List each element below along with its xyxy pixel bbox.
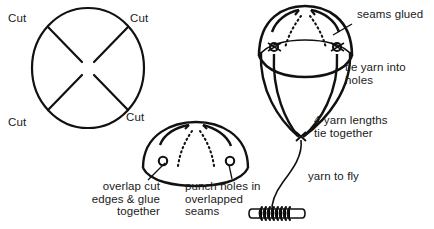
glued-dome bbox=[143, 122, 248, 186]
cut-line-top-left bbox=[48, 27, 82, 62]
dome-dotted-fold-left bbox=[178, 131, 192, 166]
label-yarn-to-fly: yarn to fly bbox=[308, 170, 359, 183]
balloon-dotted-fold-right bbox=[310, 16, 326, 48]
cut-line-bottom-right bbox=[94, 75, 128, 110]
cut-line-bottom-left bbox=[48, 75, 82, 110]
balloon-seam-right bbox=[311, 10, 339, 32]
label-cut-top-left: Cut bbox=[8, 12, 26, 25]
balloon-dotted-fold-left bbox=[285, 16, 301, 48]
label-punch-holes: punch holes in overlapped seams bbox=[185, 180, 285, 218]
label-cut-top-right: Cut bbox=[130, 12, 148, 25]
leader-overlap-glue bbox=[148, 163, 165, 180]
cut-line-top-right bbox=[94, 27, 128, 62]
label-four-yarn-lengths: 4 yarn lengths tie together bbox=[314, 114, 424, 139]
label-seams-glued: seams glued bbox=[357, 8, 423, 21]
label-tie-yarn-into-holes: tie yarn into holes bbox=[345, 61, 433, 86]
label-cut-bottom-left: Cut bbox=[8, 116, 26, 129]
instruction-diagram: Cut Cut Cut Cut overlap cut edges & glue… bbox=[0, 0, 434, 229]
label-overlap-glue: overlap cut edges & glue together bbox=[78, 180, 160, 218]
dome-hole-left-icon bbox=[159, 157, 167, 165]
leader-punch-holes bbox=[229, 165, 232, 179]
dome-dotted-fold-right bbox=[200, 131, 214, 166]
balloon-seam-left bbox=[272, 10, 299, 32]
dome-hole-right-icon bbox=[226, 157, 234, 165]
flat-circle-pattern bbox=[32, 8, 144, 128]
label-cut-bottom-right: Cut bbox=[126, 111, 144, 124]
